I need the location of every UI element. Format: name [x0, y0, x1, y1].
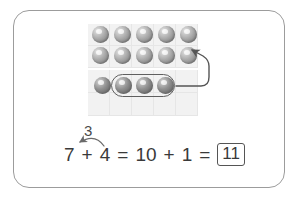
equation-ten: 10	[135, 144, 156, 166]
counter	[114, 47, 131, 64]
equation-answer-box[interactable]: 11	[217, 143, 245, 166]
equation-plus-2: +	[164, 144, 175, 166]
counter	[136, 47, 153, 64]
frame-cell	[88, 93, 110, 116]
counter	[180, 26, 197, 43]
frame-cell	[176, 93, 198, 116]
decompose-arrow-label: 3	[84, 122, 92, 139]
counter	[92, 26, 109, 43]
equation-equals-2: =	[199, 144, 210, 166]
equation-plus-1: +	[82, 144, 93, 166]
counter	[158, 26, 175, 43]
frame-cell	[176, 70, 198, 93]
counter	[158, 47, 175, 64]
counter	[136, 26, 153, 43]
moved-counters-group-outline	[111, 74, 175, 97]
equation-equals-1: =	[117, 144, 128, 166]
worksheet-canvas: 3 7 + 4 = 10 + 1 = 11	[0, 0, 300, 202]
counter	[114, 26, 131, 43]
equation-addend-4: 4	[100, 144, 111, 166]
counter	[92, 47, 109, 64]
make-ten-equation: 7 + 4 = 10 + 1 = 11	[64, 143, 245, 166]
counter	[94, 77, 111, 94]
equation-one: 1	[182, 144, 193, 166]
counter	[180, 47, 197, 64]
equation-addend-7: 7	[64, 144, 75, 166]
